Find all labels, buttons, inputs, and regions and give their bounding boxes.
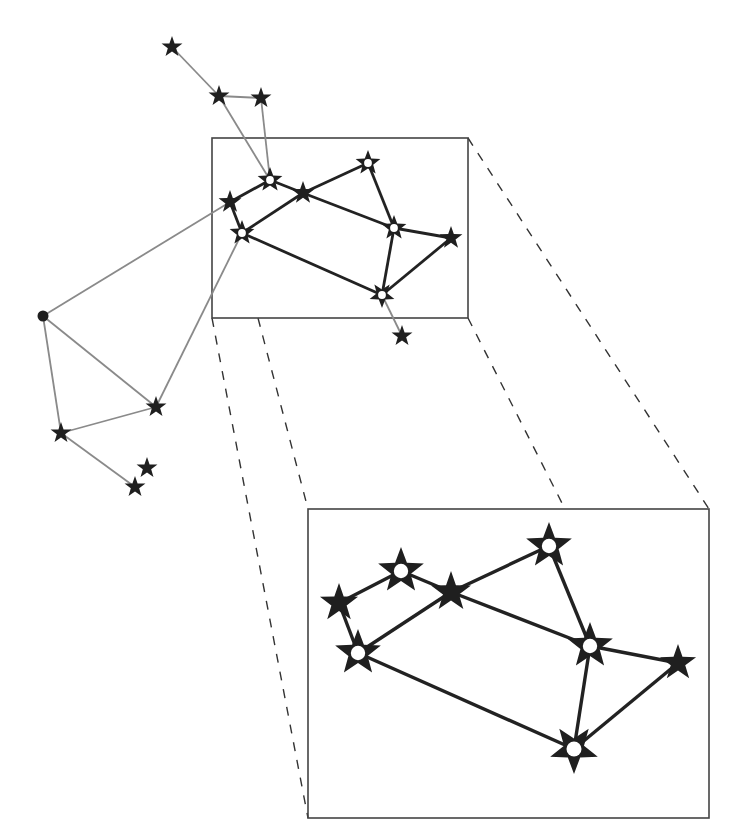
edge-H-L2 (156, 233, 242, 407)
edge-L1-L3 (61, 433, 135, 487)
zoomed-edges (339, 546, 678, 749)
zoomed-star-E-icon (567, 622, 613, 665)
overview-star-L4-icon (137, 457, 158, 477)
overview-star-S-icon (392, 325, 413, 345)
constellation-diagram (0, 0, 743, 822)
edge-H-C (242, 193, 303, 233)
zoomed-edge-H-G (358, 653, 574, 749)
zoom-connector-lines (212, 138, 709, 818)
zoomed-star-A-icon (320, 583, 358, 619)
zoomed-star-D-icon (526, 522, 572, 565)
hollow-center (583, 639, 597, 653)
zoomed-edge-C-E (451, 592, 590, 646)
hollow-center (390, 224, 398, 232)
zoomed-star-H-icon (335, 629, 381, 672)
overview-outer-edges (43, 47, 402, 487)
edge-G-F (382, 238, 451, 295)
dashed-connector-3 (468, 318, 565, 509)
zoomed-edge-G-F (574, 663, 678, 749)
frames (212, 138, 709, 818)
zoomed-nodes (320, 522, 696, 774)
edge-H-G (242, 233, 382, 295)
diagram-canvas (0, 0, 743, 822)
edge-T1-T2 (172, 47, 219, 96)
hollow-center (364, 159, 372, 167)
edge-G-S (382, 295, 402, 336)
overview-star-L2-icon (146, 396, 167, 416)
overview-inner-edges (230, 163, 451, 295)
edge-C-E (303, 193, 394, 228)
edge-DOT-L1 (43, 316, 61, 433)
hollow-center (238, 229, 246, 237)
dashed-connector-2 (468, 138, 709, 509)
zoomed-edge-C-D (451, 546, 549, 592)
overview-star-A-icon (219, 190, 242, 212)
overview-star-H-icon (230, 220, 255, 244)
overview-star-D-icon (356, 150, 381, 174)
zoomed-star-B-icon (378, 547, 424, 590)
hollow-center (567, 742, 582, 757)
dashed-connector-1 (258, 318, 308, 509)
edge-L1-L2 (61, 407, 156, 433)
overview-star-L3-icon (125, 476, 146, 496)
hollow-center (351, 646, 365, 660)
zoomed-edge-H-C (358, 592, 451, 653)
overview-star-T1-icon (162, 36, 183, 56)
overview-node-dot (38, 311, 49, 322)
overview-nodes (38, 36, 463, 496)
edge-E-F (394, 228, 451, 238)
hollow-center (542, 539, 556, 553)
dashed-connector-0 (212, 318, 308, 818)
edge-DOT-A (43, 202, 230, 316)
zoomed-star-C-icon (431, 571, 471, 609)
hollow-center (378, 291, 386, 299)
edge-DOT-L2 (43, 316, 156, 407)
overview-star-B-icon (258, 167, 283, 191)
hollow-center (394, 564, 408, 578)
edge-C-D (303, 163, 368, 193)
hollow-center (266, 176, 274, 184)
